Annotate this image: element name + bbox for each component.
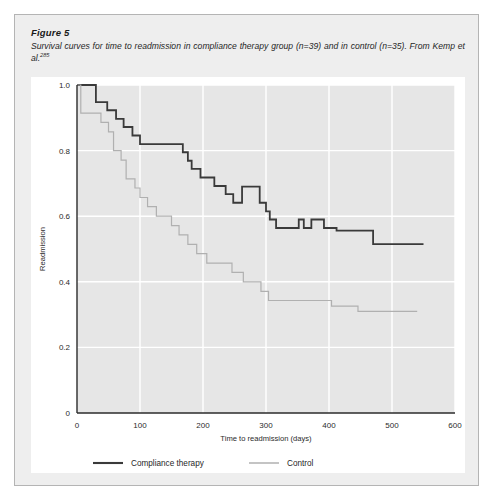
svg-text:1.0: 1.0 <box>59 81 71 90</box>
svg-text:400: 400 <box>322 421 336 430</box>
svg-text:0.6: 0.6 <box>59 212 71 221</box>
svg-text:100: 100 <box>133 421 147 430</box>
svg-text:0.8: 0.8 <box>59 147 71 156</box>
figure-caption-text: Survival curves for time to readmission … <box>31 41 465 64</box>
svg-text:0: 0 <box>66 409 71 418</box>
svg-text:Control: Control <box>287 459 314 468</box>
svg-text:300: 300 <box>259 421 273 430</box>
survival-curve-chart: 0100200300400500600 00.20.40.60.81.0 Tim… <box>31 77 465 473</box>
svg-text:600: 600 <box>448 421 462 430</box>
svg-text:500: 500 <box>385 421 399 430</box>
figure-label: Figure 5 <box>31 27 465 38</box>
figure-reference-superscript: 285 <box>40 52 49 58</box>
svg-text:Time to readmission (days): Time to readmission (days) <box>220 434 312 443</box>
chart-legend: Compliance therapyControl <box>93 459 314 468</box>
y-axis-tick-labels: 00.20.40.60.81.0 <box>59 81 71 418</box>
svg-text:Compliance therapy: Compliance therapy <box>131 459 205 468</box>
figure-caption-body: Survival curves for time to readmission … <box>31 41 465 63</box>
svg-text:Readmission: Readmission <box>38 227 47 271</box>
svg-text:0.2: 0.2 <box>59 343 71 352</box>
figure-caption-block: Figure 5 Survival curves for time to rea… <box>31 27 465 64</box>
figure-panel: Figure 5 Survival curves for time to rea… <box>14 14 479 486</box>
x-axis-tick-labels: 0100200300400500600 <box>75 421 462 430</box>
svg-text:0.4: 0.4 <box>59 278 71 287</box>
chart-card: 0100200300400500600 00.20.40.60.81.0 Tim… <box>31 77 465 473</box>
svg-text:200: 200 <box>196 421 210 430</box>
svg-text:0: 0 <box>75 421 80 430</box>
